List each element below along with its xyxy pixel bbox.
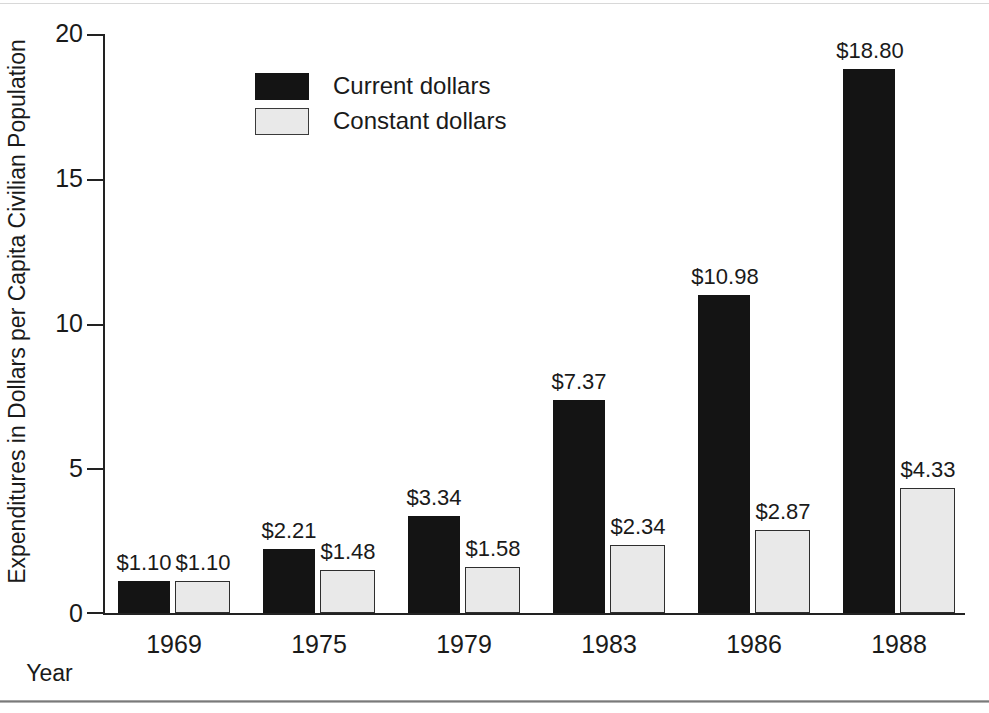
x-axis-title: Year bbox=[0, 662, 989, 685]
bar-value-current-1988: $18.80 bbox=[831, 40, 909, 62]
x-axis-line bbox=[103, 613, 965, 615]
bar-current-1979 bbox=[408, 516, 460, 613]
bar-constant-1988 bbox=[900, 488, 955, 613]
figure-top-rule bbox=[0, 3, 989, 4]
y-tick-0 bbox=[87, 612, 103, 614]
figure-bottom-rule bbox=[0, 700, 989, 703]
x-tick-label-1986: 1986 bbox=[714, 632, 794, 657]
bar-current-1969 bbox=[118, 581, 170, 613]
bar-value-constant-1975: $1.48 bbox=[312, 541, 384, 563]
x-tick-label-1969: 1969 bbox=[134, 632, 214, 657]
bar-value-current-1986: $10.98 bbox=[686, 266, 764, 288]
bar-value-current-1979: $3.34 bbox=[398, 487, 470, 509]
bar-value-constant-1983: $2.34 bbox=[602, 516, 674, 538]
y-tick-20 bbox=[87, 34, 103, 36]
bar-current-1986 bbox=[698, 295, 750, 613]
y-tick-label-20: 20 bbox=[43, 21, 83, 46]
legend-swatch-current-dollars bbox=[255, 73, 309, 100]
legend-label-current-dollars: Current dollars bbox=[333, 72, 490, 100]
bar-constant-1983 bbox=[610, 545, 665, 613]
figure: 20 15 10 5 0 Expenditures in Dollars per… bbox=[0, 0, 989, 713]
legend-item-constant-dollars: Constant dollars bbox=[255, 108, 555, 143]
x-tick-label-1983: 1983 bbox=[569, 632, 649, 657]
y-axis-title: Expenditures in Dollars per Capita Civil… bbox=[6, 12, 29, 612]
bar-value-current-1975: $2.21 bbox=[253, 520, 325, 542]
y-tick-15 bbox=[87, 179, 103, 181]
plot-area: Current dollars Constant dollars $1.10 $… bbox=[103, 34, 965, 613]
legend-label-constant-dollars: Constant dollars bbox=[333, 107, 506, 135]
legend: Current dollars Constant dollars bbox=[255, 73, 555, 143]
y-tick-label-0: 0 bbox=[43, 601, 83, 626]
x-tick-label-1979: 1979 bbox=[424, 632, 504, 657]
y-tick-5 bbox=[87, 468, 103, 470]
bar-current-1975 bbox=[263, 549, 315, 613]
bar-value-current-1983: $7.37 bbox=[543, 371, 615, 393]
legend-item-current-dollars: Current dollars bbox=[255, 73, 555, 108]
bar-value-constant-1988: $4.33 bbox=[892, 459, 964, 481]
y-tick-label-5: 5 bbox=[43, 456, 83, 481]
legend-swatch-constant-dollars bbox=[255, 108, 309, 135]
bar-constant-1975 bbox=[320, 570, 375, 613]
y-tick-10 bbox=[87, 324, 103, 326]
y-tick-label-10: 10 bbox=[43, 311, 83, 336]
y-axis-tick-labels: 20 15 10 5 0 bbox=[43, 34, 83, 613]
x-axis-title-text: Year bbox=[26, 660, 72, 686]
bar-current-1988 bbox=[843, 69, 895, 613]
bar-constant-1969 bbox=[175, 581, 230, 613]
bar-constant-1986 bbox=[755, 530, 810, 613]
x-tick-label-1988: 1988 bbox=[859, 632, 939, 657]
bar-constant-1979 bbox=[465, 567, 520, 613]
bar-current-1983 bbox=[553, 400, 605, 613]
x-tick-label-1975: 1975 bbox=[279, 632, 359, 657]
y-axis-line bbox=[103, 34, 105, 613]
y-tick-label-15: 15 bbox=[43, 166, 83, 191]
bar-value-constant-1979: $1.58 bbox=[457, 538, 529, 560]
bar-value-constant-1986: $2.87 bbox=[747, 501, 819, 523]
bar-value-constant-1969: $1.10 bbox=[167, 552, 239, 574]
